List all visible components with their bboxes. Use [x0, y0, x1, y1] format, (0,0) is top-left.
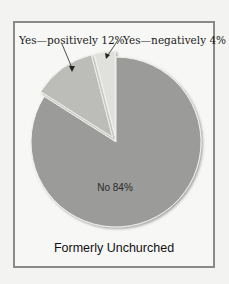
label-no: No 84% — [97, 182, 133, 193]
positively-arrow — [62, 44, 72, 68]
label-positively: Yes—positively 12% — [18, 34, 125, 46]
chart-title: Formerly Unchurched — [13, 241, 215, 255]
label-negatively: Yes—negatively 4% — [122, 34, 226, 46]
